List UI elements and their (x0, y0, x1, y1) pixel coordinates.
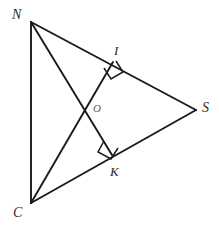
geometry-figure: N C S I K O (0, 0, 219, 229)
segment-side-CS (31, 110, 196, 203)
geometry-canvas (0, 0, 219, 229)
vertex-label-N: N (12, 8, 21, 22)
segment-altitude-CI (31, 62, 113, 203)
segment-side-NS (31, 22, 196, 110)
vertex-label-S: S (202, 101, 209, 115)
point-label-O: O (93, 103, 101, 114)
point-label-K: K (110, 165, 119, 178)
vertex-label-C: C (13, 206, 22, 220)
point-label-I: I (114, 44, 118, 57)
